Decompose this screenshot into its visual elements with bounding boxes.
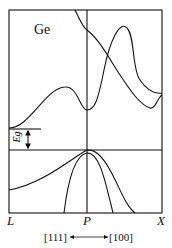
k-point-X: X	[157, 213, 165, 229]
conduction-band-2	[75, 10, 162, 108]
k-point-L: L	[7, 213, 14, 229]
band-structure-diagram	[0, 0, 172, 248]
k-point-P: P	[83, 213, 91, 229]
conduction-band-1	[9, 26, 162, 128]
valence-band-heavy	[9, 150, 135, 213]
band-gap-label: Eg	[8, 127, 26, 147]
direction-111: [111]	[44, 231, 67, 243]
material-label: Ge	[34, 22, 50, 38]
direction-100: [100]	[109, 231, 133, 243]
